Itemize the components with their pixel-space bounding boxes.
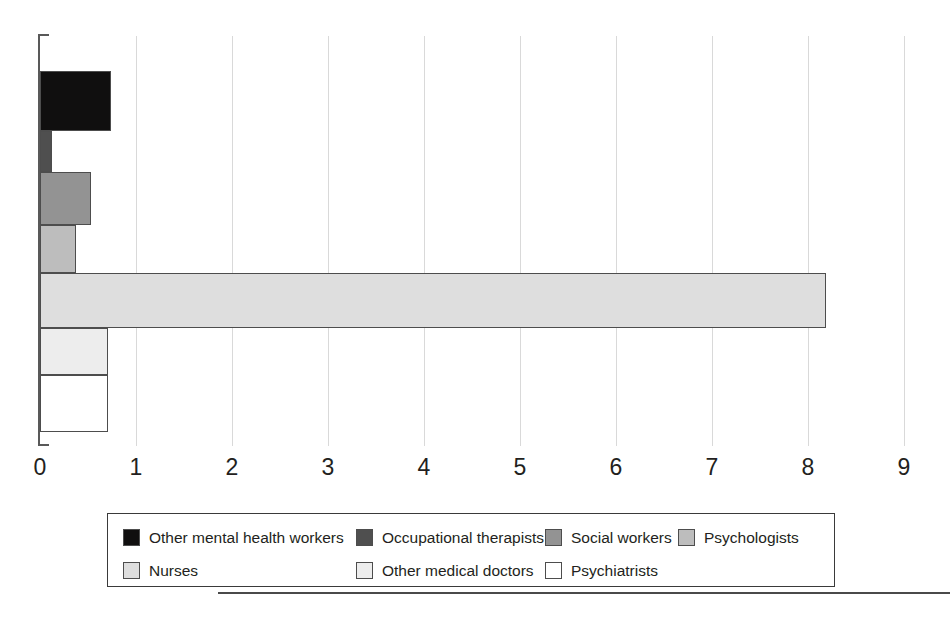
gridline-3 (328, 36, 329, 446)
gridline-5 (520, 36, 521, 446)
legend-label: Occupational therapists (382, 529, 544, 546)
x-tick-label-9: 9 (884, 452, 924, 482)
legend-label: Other medical doctors (382, 562, 534, 579)
gridline-1 (136, 36, 137, 446)
gridline-9 (904, 36, 905, 446)
legend-row-1: Other mental health workersOccupational … (108, 524, 834, 554)
x-tick-label-8: 8 (788, 452, 828, 482)
x-tick-label-3: 3 (308, 452, 348, 482)
gridline-6 (616, 36, 617, 446)
legend-item-psychiatrists[interactable]: Psychiatrists (545, 557, 658, 583)
legend-label: Psychologists (704, 529, 799, 546)
bar-psychologists (40, 225, 76, 273)
legend-item-nurses[interactable]: Nurses (123, 557, 198, 583)
bar-other-medical-doctors (40, 328, 108, 375)
legend-swatch-icon (356, 562, 373, 579)
legend-item-social-workers[interactable]: Social workers (545, 524, 672, 550)
gridline-4 (424, 36, 425, 446)
x-tick-label-0: 0 (20, 452, 60, 482)
legend-swatch-icon (123, 529, 140, 546)
x-tick-label-4: 4 (404, 452, 444, 482)
bar-occupational-therapists (40, 131, 52, 172)
x-axis-tick-labels: 0123456789 (0, 452, 950, 486)
legend-swatch-icon (545, 562, 562, 579)
legend-swatch-icon (356, 529, 373, 546)
x-tick-label-6: 6 (596, 452, 636, 482)
legend-item-other-mental-health-workers[interactable]: Other mental health workers (123, 524, 344, 550)
legend-swatch-icon (123, 562, 140, 579)
bar-nurses (40, 273, 826, 328)
gridline-7 (712, 36, 713, 446)
legend-swatch-icon (678, 529, 695, 546)
bar-chart: 0123456789 (0, 0, 950, 500)
legend-label: Psychiatrists (571, 562, 658, 579)
x-tick-label-5: 5 (500, 452, 540, 482)
x-tick-label-2: 2 (212, 452, 252, 482)
legend-label: Other mental health workers (149, 529, 344, 546)
bar-psychiatrists (40, 375, 108, 432)
legend-label: Social workers (571, 529, 672, 546)
legend-label: Nurses (149, 562, 198, 579)
legend-item-psychologists[interactable]: Psychologists (678, 524, 799, 550)
gridline-2 (232, 36, 233, 446)
x-tick-label-1: 1 (116, 452, 156, 482)
chart-legend: Other mental health workersOccupational … (107, 513, 835, 587)
bar-other-mental-health-workers (40, 71, 111, 131)
caption-divider-rule (218, 592, 950, 594)
x-tick-label-7: 7 (692, 452, 732, 482)
legend-row-2: NursesOther medical doctorsPsychiatrists (108, 557, 834, 587)
bar-social-workers (40, 172, 91, 225)
plot-area (40, 36, 904, 446)
legend-swatch-icon (545, 529, 562, 546)
legend-item-other-medical-doctors[interactable]: Other medical doctors (356, 557, 534, 583)
legend-item-occupational-therapists[interactable]: Occupational therapists (356, 524, 544, 550)
gridline-8 (808, 36, 809, 446)
